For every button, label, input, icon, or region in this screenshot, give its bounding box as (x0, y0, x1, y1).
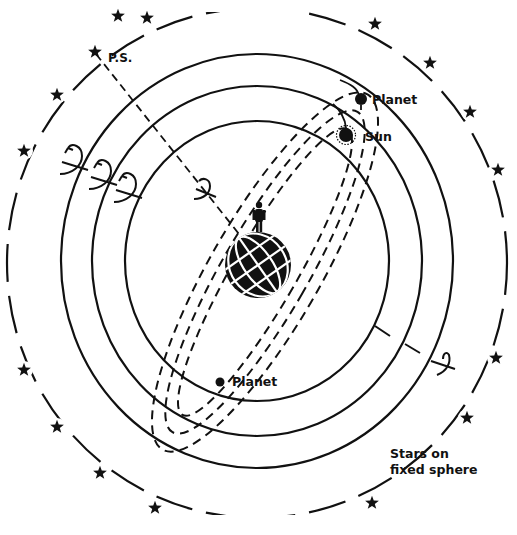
tick-mark (405, 344, 420, 353)
planet-bottom-label: Planet (232, 374, 277, 389)
rotation-arrow-icon (60, 145, 88, 174)
planet-top-marker (340, 80, 367, 110)
planet-top-label: Planet (372, 92, 417, 107)
pole-star-label: P.S. (108, 51, 132, 65)
planet-bottom-marker (216, 378, 225, 387)
sun-label: Sun (365, 129, 392, 144)
stars-caption-line1: Stars on (390, 446, 449, 461)
rotation-arrow-icon (431, 353, 455, 375)
pole-axis-line (96, 54, 262, 263)
rotation-arrow-icon (114, 173, 142, 202)
tick-mark (375, 326, 390, 336)
stars-caption-line2: fixed sphere (390, 462, 478, 477)
earth-globe-icon (216, 222, 300, 308)
diagram-canvas: P.S. Planet Sun Planet Stars on fixed sp… (0, 0, 517, 535)
cosmos-diagram: P.S. Planet Sun Planet Stars on fixed sp… (0, 0, 517, 535)
